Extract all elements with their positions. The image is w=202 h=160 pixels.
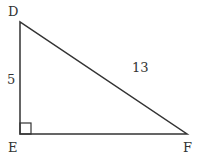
vertex-label-f: F (183, 140, 192, 155)
vertex-label-e: E (8, 140, 18, 155)
right-angle-marker-icon (20, 123, 31, 134)
side-label-df: 13 (132, 60, 149, 75)
side-label-de: 5 (7, 72, 15, 87)
triangle-def (20, 22, 187, 134)
triangle-diagram: D 5 13 E F (0, 0, 202, 160)
vertex-label-d: D (8, 4, 18, 19)
